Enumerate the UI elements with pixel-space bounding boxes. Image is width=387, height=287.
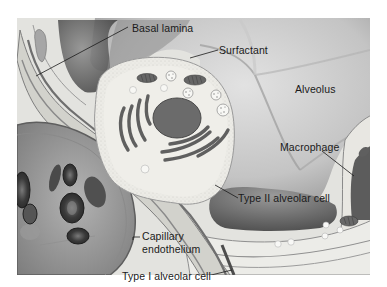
label-surfactant: Surfactant [219, 45, 268, 56]
label-macrophage: Macrophage [280, 142, 339, 153]
nucleus [153, 98, 201, 138]
label-capillary-endothelium-line2: endothelium [142, 244, 200, 255]
label-type-i-alveolar-cell: Type I alveolar cell [122, 271, 211, 282]
label-alveolus: Alveolus [295, 84, 336, 95]
label-capillary-endothelium-line1: Capillary [142, 231, 184, 242]
label-type-ii-alveolar-cell: Type II alveolar cell [238, 193, 330, 204]
label-basal-lamina: Basal lamina [132, 23, 193, 34]
